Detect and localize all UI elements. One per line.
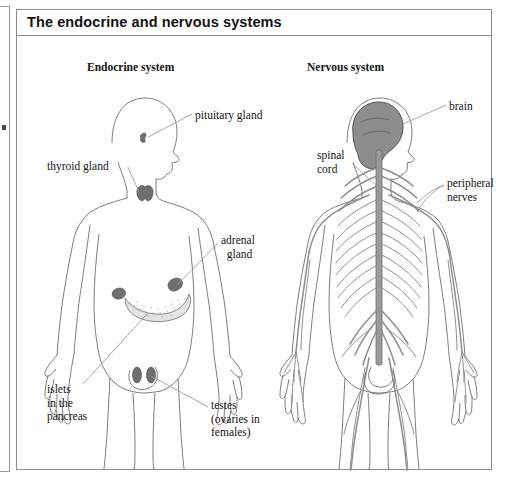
label-islets-pancreas: islets in the pancreas xyxy=(47,383,87,424)
leader-peripheral-nerves xyxy=(417,185,444,212)
label-thyroid-gland: thyroid gland xyxy=(47,160,109,174)
label-pituitary-gland: pituitary gland xyxy=(195,109,262,123)
spinal-cord-organ xyxy=(376,150,382,365)
leader-brain xyxy=(403,105,446,124)
label-spinal-cord: spinal cord xyxy=(317,149,344,176)
label-brain: brain xyxy=(449,100,473,114)
label-adrenal-gland: adrenal gland xyxy=(221,234,255,261)
figure-panel: The endocrine and nervous systems Endocr… xyxy=(16,9,492,470)
page-margin-mark xyxy=(2,125,6,130)
label-testes-ovaries: testes (ovaries in females) xyxy=(211,399,260,440)
label-peripheral-nerves: peripheral nerves xyxy=(447,177,494,204)
adjacent-page-sliver xyxy=(0,6,10,472)
